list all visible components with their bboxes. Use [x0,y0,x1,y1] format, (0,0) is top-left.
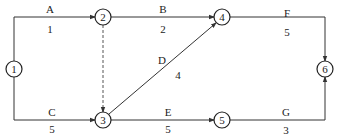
activity-g: G 3 [230,77,325,136]
node-5-label: 5 [219,114,225,126]
arrow-g [230,77,325,120]
activity-g-name: G [282,106,290,118]
activity-d: D 4 [109,23,216,114]
activity-e-duration: 5 [165,123,171,135]
activity-b-name: B [159,3,166,15]
node-3-label: 3 [100,114,106,126]
node-1: 1 [6,61,22,77]
activity-a-name: A [46,3,54,15]
activity-b-duration: 2 [160,23,166,35]
activity-f: F 5 [230,7,325,61]
activity-f-duration: 5 [284,26,290,38]
activity-f-name: F [284,7,290,19]
activity-e-name: E [165,106,172,118]
node-5: 5 [214,112,230,128]
activity-d-duration: 4 [175,69,181,81]
node-4-label: 4 [219,11,225,23]
activity-e: E 5 [111,106,214,135]
node-1-label: 1 [11,63,17,75]
activity-a: A 1 [14,3,95,61]
node-3: 3 [95,112,111,128]
activity-c: C 5 [14,77,95,135]
activity-d-name: D [158,54,166,66]
network-diagram: A 1 B 2 C 5 D 4 E 5 F 5 G 3 [0,0,341,139]
node-4: 4 [214,9,230,25]
activity-g-duration: 3 [283,124,289,136]
node-6-label: 6 [322,63,328,75]
arrow-f [230,17,325,61]
node-2: 2 [95,9,111,25]
node-6: 6 [317,61,333,77]
arrow-d [109,23,216,114]
activity-c-duration: 5 [49,123,55,135]
activity-c-name: C [48,106,55,118]
node-2-label: 2 [100,11,106,23]
arrow-a [14,17,95,61]
activity-b: B 2 [111,3,214,35]
activity-a-duration: 1 [47,23,53,35]
